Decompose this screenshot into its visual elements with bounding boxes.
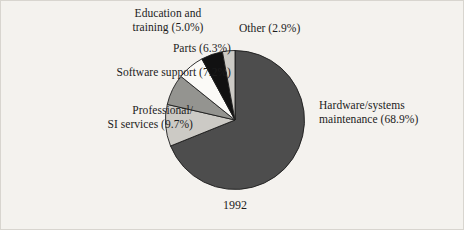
pie-label-hardware-systems-maintenance: Hardware/systems maintenance (68.9%) [319, 99, 459, 126]
pie-label-education-and-training: Education and training (5.0%) [105, 7, 231, 34]
pie-label-software-support: Software support (7.2%) [23, 66, 231, 80]
chart-year-caption: 1992 [201, 198, 269, 212]
pie-label-professional-si-services: Professional/ SI services (9.7%) [49, 104, 193, 131]
pie-label-other: Other (2.9%) [239, 22, 331, 36]
pie-chart-figure: Hardware/systems maintenance (68.9%)Prof… [0, 0, 464, 230]
pie-label-parts: Parts (6.3%) [105, 42, 231, 56]
